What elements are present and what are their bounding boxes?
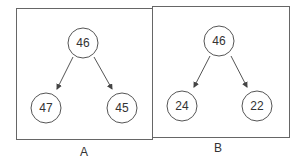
panel-b-label: B — [214, 141, 222, 155]
node-value: 46 — [76, 36, 90, 50]
edge-a-root-left — [57, 57, 73, 89]
node-value: 22 — [250, 99, 264, 113]
node-value: 24 — [175, 99, 189, 113]
node-value: 45 — [115, 101, 129, 115]
node-a-left: 47 — [31, 93, 61, 123]
panel-a-label: A — [80, 145, 88, 159]
node-value: 46 — [212, 34, 226, 48]
node-value: 47 — [39, 101, 53, 115]
node-b-root: 46 — [204, 26, 234, 56]
node-a-right: 45 — [107, 93, 137, 123]
panel-b: 46 24 22 B — [153, 7, 290, 156]
edge-b-root-left — [194, 56, 210, 87]
edge-a-root-right — [94, 57, 112, 89]
panel-a: 46 47 45 A — [17, 9, 153, 160]
node-b-right: 22 — [242, 91, 272, 121]
heap-comparison-diagram: 46 47 45 A 46 24 22 B — [0, 0, 303, 164]
node-a-root: 46 — [68, 28, 98, 58]
node-b-left: 24 — [167, 91, 197, 121]
edge-b-root-right — [231, 56, 247, 87]
